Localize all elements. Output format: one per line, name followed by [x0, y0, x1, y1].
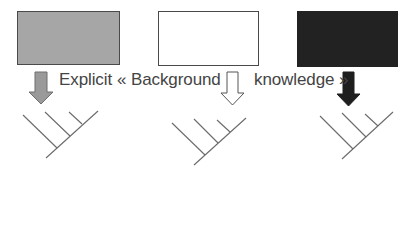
white-down-arrow-icon — [221, 72, 244, 105]
caption-knowledge: knowledge » — [254, 70, 348, 90]
cladogram-tree-3 — [320, 112, 393, 159]
caption-background: « Background — [117, 70, 221, 90]
cladogram-tree-1 — [23, 111, 98, 158]
caption-explicit: Explicit — [59, 70, 112, 90]
cladogram-tree-2 — [172, 118, 246, 165]
grey-down-arrow-icon — [29, 72, 53, 104]
